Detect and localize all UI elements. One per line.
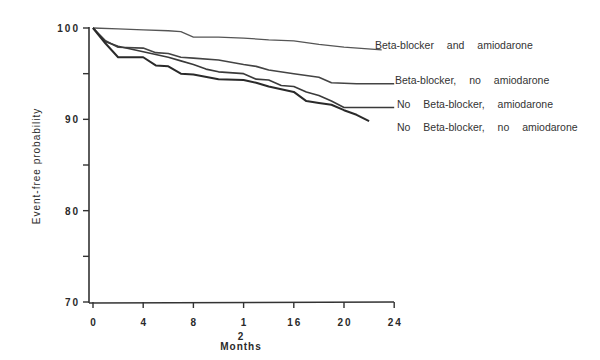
legend: Beta-blocker and amiodaroneBeta-blocker,…: [375, 39, 578, 133]
x-ticks: 0481162024: [90, 302, 403, 328]
y-axis-title: Event-free probability: [31, 108, 42, 225]
kaplan-meier-chart: 708090100 0481162024 Event-free probabil…: [0, 0, 600, 360]
survival-curve-4: [93, 28, 369, 121]
x-tick-label: 8: [191, 317, 199, 328]
survival-curve-2: [93, 28, 394, 84]
legend-label: No Beta-blocker, no amiodarone: [397, 121, 578, 133]
y-tick-label: 70: [65, 297, 80, 308]
x-tick-label: 0: [90, 317, 98, 328]
legend-label: Beta-blocker and amiodarone: [375, 39, 533, 51]
x-tick-label: 24: [388, 317, 403, 328]
series-group: [93, 28, 394, 121]
survival-curve-3: [93, 28, 394, 107]
survival-curve-1: [93, 28, 382, 50]
x-tick-label: 20: [337, 317, 352, 328]
y-tick-label: 80: [65, 206, 80, 217]
legend-label: Beta-blocker, no amiodarone: [395, 74, 549, 86]
y-ticks: 708090100: [57, 23, 89, 308]
x-tick-label: 4: [140, 317, 148, 328]
x-tick-label: 16: [287, 317, 302, 328]
legend-label: No Beta-blocker, amiodarone: [397, 98, 553, 110]
x-axis-line: [89, 302, 394, 303]
y-tick-label: 100: [57, 23, 80, 34]
x-axis-title-line2: Months: [220, 341, 262, 352]
x-tick-label: 1: [241, 317, 249, 328]
axes: 708090100 0481162024: [57, 23, 402, 328]
y-tick-label: 90: [65, 114, 80, 125]
